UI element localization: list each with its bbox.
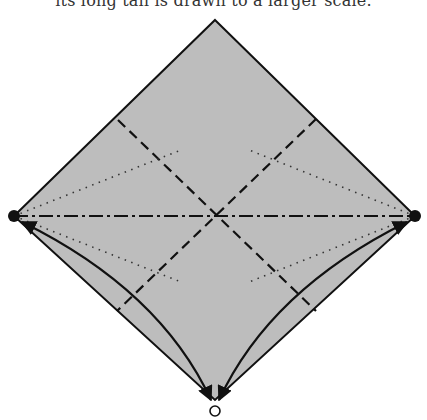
- bottom-point-marker: [210, 406, 220, 416]
- diamond-region: [14, 20, 415, 400]
- right-point-marker: [409, 210, 421, 222]
- left-point-marker: [8, 210, 20, 222]
- penrose-diagram: [0, 0, 427, 420]
